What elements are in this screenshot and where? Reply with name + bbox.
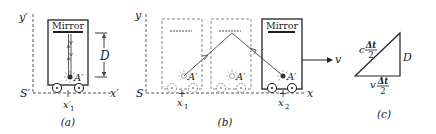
ghost-source-2-label: A′ (235, 71, 246, 82)
panel-b: y S x A′ (134, 9, 342, 128)
x1-subscript: 1 (184, 103, 188, 111)
mirror-label-b: Mirror (266, 20, 299, 31)
mirror-b (268, 31, 295, 33)
x1-label: x (177, 97, 183, 108)
source-a-prime-label-b: A′ (286, 71, 297, 82)
hyp-numerator: Δt (365, 40, 377, 50)
caption-a: (a) (61, 116, 75, 128)
panel-c: c Δt 2 D v Δt 2 (c) (355, 33, 412, 120)
wheel-icon (288, 84, 297, 93)
velocity-v-label: v (335, 53, 342, 66)
light-path-down-diagonal (232, 33, 283, 76)
distance-d-label: D (99, 49, 110, 63)
panel-a: y′ S′ x′ Mirror A′ (18, 11, 119, 128)
mirror (53, 31, 83, 33)
light-clock-figure: y′ S′ x′ Mirror A′ (0, 0, 436, 134)
x2-label: x (278, 97, 284, 108)
light-source-icon (64, 71, 75, 83)
caption-b: (b) (218, 116, 233, 128)
base-numerator: Δt (377, 76, 389, 86)
side-d-label: D (402, 51, 412, 64)
ghost-source-1-label: A′ (187, 71, 198, 82)
caption-c: (c) (377, 108, 391, 120)
base-denominator: 2 (380, 86, 385, 96)
hyp-coef: c (359, 44, 365, 55)
source-a-prime-label: A′ (73, 72, 84, 83)
origin-s-label: S (136, 87, 144, 100)
x-label: x (307, 87, 314, 100)
wheel-icon (268, 84, 277, 93)
x2-subscript: 2 (285, 103, 289, 111)
wheel-icon (53, 84, 62, 93)
mirror-label: Mirror (52, 20, 85, 31)
light-path-up-diagonal (184, 33, 232, 76)
wheel-icon (75, 84, 84, 93)
origin-s-prime-label: S′ (20, 87, 31, 100)
y-prime-label: y′ (18, 11, 28, 24)
x-prime-label: x′ (110, 87, 119, 100)
y-label: y (134, 9, 142, 22)
x1-prime-subscript: 1 (70, 105, 74, 113)
light-source-icon (277, 70, 288, 81)
base-coef: v (370, 79, 376, 90)
hyp-denominator: 2 (368, 50, 373, 60)
